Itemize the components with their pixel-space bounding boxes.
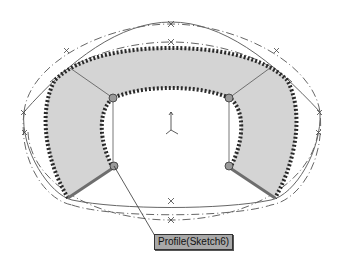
leader-line (114, 166, 155, 236)
profile-callout-label[interactable]: Profile(Sketch6) (154, 234, 233, 250)
connector-nodes[interactable] (109, 94, 233, 170)
connector-node (109, 94, 117, 102)
connector-node (225, 162, 233, 170)
graphics-viewport[interactable] (0, 0, 341, 265)
connector-node (225, 94, 233, 102)
coordinate-axes-icon (166, 112, 178, 134)
